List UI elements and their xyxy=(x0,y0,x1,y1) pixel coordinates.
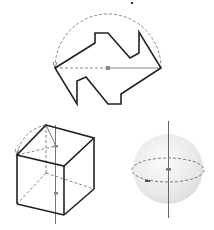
cube-edge xyxy=(64,189,94,215)
sphere-panel xyxy=(132,121,204,218)
hidden-diagonal xyxy=(17,146,56,155)
hidden-edge xyxy=(46,173,94,189)
center-dot xyxy=(166,168,171,171)
center-dot xyxy=(54,192,58,195)
center-dot xyxy=(54,145,58,148)
diagram-canvas xyxy=(0,0,214,230)
center-dot xyxy=(106,66,110,70)
equator-marker xyxy=(145,180,150,182)
polygon-rotation-panel xyxy=(53,14,161,104)
cube-edge xyxy=(17,204,64,215)
radius-line xyxy=(46,125,56,146)
cube-rotation-panel xyxy=(15,125,94,224)
hidden-edge xyxy=(17,173,46,204)
stray-mark xyxy=(131,2,133,4)
